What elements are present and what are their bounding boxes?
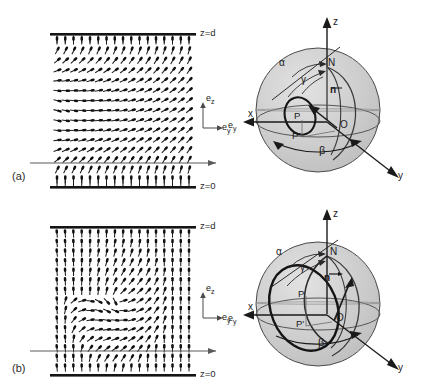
top-plate-label-a-text: z=d bbox=[200, 27, 216, 38]
sphere-b-label-y: y bbox=[398, 362, 403, 373]
bottom-plate-b bbox=[50, 374, 196, 377]
sphere-b-label-alpha: α bbox=[276, 246, 282, 257]
unit-sphere-b: z x y ey N O P P' n α γ β bbox=[232, 196, 422, 392]
director-field-b: z=d z=0 ez ey bbox=[0, 196, 232, 392]
bottom-plate-label-b: z=0 bbox=[200, 368, 216, 379]
sphere-a-label-gamma: γ bbox=[301, 74, 306, 85]
sphere-a-label-O: O bbox=[340, 119, 348, 130]
sphere-a-ey-sub: y bbox=[233, 125, 237, 132]
ez-sub-a: z bbox=[211, 98, 215, 105]
sphere-b-label-gamma: γ bbox=[300, 262, 305, 273]
top-plate-a bbox=[50, 33, 196, 36]
top-plate-label-b-text: z=d bbox=[200, 220, 216, 231]
sphere-a-label-P: P bbox=[294, 110, 300, 121]
axis-key-label-ez-b: ez bbox=[206, 283, 215, 295]
panel-b: (b) z=d z=0 ez ey bbox=[0, 196, 422, 392]
sphere-a-label-ey: ey bbox=[228, 120, 237, 132]
director-field-a: z=d z=0 ez ey bbox=[0, 0, 232, 196]
axis-key-label-ez-a: ez bbox=[206, 93, 215, 105]
sphere-a-label-beta: β bbox=[319, 144, 325, 156]
unit-sphere-a-svg bbox=[232, 0, 422, 196]
top-plate-label-b: z=d bbox=[200, 220, 216, 231]
sphere-a-label-z: z bbox=[333, 16, 338, 27]
panel-a: (a) z=d bbox=[0, 0, 422, 196]
sphere-b-label-P: P bbox=[298, 288, 304, 299]
director-rods-b bbox=[57, 230, 189, 371]
sphere-b-label-beta: β bbox=[318, 336, 324, 348]
sphere-b-label-n: n bbox=[324, 272, 330, 283]
sphere-b-label-P-prime: P' bbox=[296, 318, 304, 329]
unit-sphere-a: z x y ey N O P P' n α γ β bbox=[232, 0, 422, 196]
bottom-plate-a bbox=[50, 186, 196, 189]
sphere-a-label-x: x bbox=[248, 108, 253, 119]
sphere-b-label-O: O bbox=[336, 312, 344, 323]
sphere-b-label-x: x bbox=[248, 301, 253, 312]
bottom-plate-label-a-text: z=0 bbox=[200, 180, 216, 191]
sphere-b-label-ey: ey bbox=[228, 313, 237, 325]
sphere-b-label-N: N bbox=[330, 246, 337, 257]
bottom-plate-label-a: z=0 bbox=[200, 180, 216, 191]
bottom-plate-label-b-text: z=0 bbox=[200, 368, 216, 379]
sphere-a-label-N: N bbox=[328, 57, 335, 68]
axis-key-b bbox=[200, 292, 223, 321]
axis-key-a bbox=[200, 102, 223, 131]
director-field-a-svg bbox=[0, 0, 232, 196]
sphere-a-label-n: n bbox=[330, 84, 336, 95]
sphere-a-label-alpha: α bbox=[279, 57, 285, 68]
sphere-a-label-y: y bbox=[398, 170, 403, 181]
top-plate-b bbox=[50, 226, 196, 229]
director-field-b-svg bbox=[0, 196, 232, 392]
director-rods-a bbox=[53, 37, 191, 183]
unit-sphere-b-svg bbox=[232, 196, 422, 392]
sphere-a-label-P-prime: P' bbox=[292, 130, 300, 141]
ez-sub-b: z bbox=[211, 288, 215, 295]
top-plate-label-a: z=d bbox=[200, 27, 216, 38]
sphere-b-label-z: z bbox=[333, 208, 338, 219]
sphere-b-ey-sub: y bbox=[233, 318, 237, 325]
